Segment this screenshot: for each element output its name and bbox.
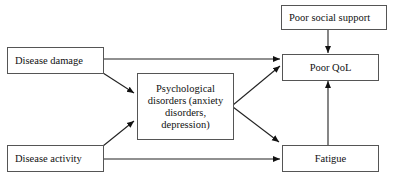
node-disease-activity-label: Disease activity <box>15 153 82 165</box>
node-poor-social-support-label: Poor social support <box>289 12 370 24</box>
node-psychological-disorders-label: Psychological disorders (anxiety disorde… <box>142 83 229 131</box>
node-poor-qol-label: Poor QoL <box>310 62 352 74</box>
node-fatigue-label: Fatigue <box>315 153 347 165</box>
edge-psych-to-fatigue <box>233 107 279 142</box>
node-disease-damage: Disease damage <box>7 47 104 74</box>
edge-psych-to-qol <box>233 66 280 105</box>
node-poor-social-support: Poor social support <box>281 5 387 30</box>
edge-damage-to-psych <box>103 73 134 93</box>
node-fatigue: Fatigue <box>282 145 379 172</box>
edge-activity-to-psych <box>103 121 134 146</box>
node-disease-damage-label: Disease damage <box>15 55 83 67</box>
node-disease-activity: Disease activity <box>7 145 104 172</box>
node-psychological-disorders: Psychological disorders (anxiety disorde… <box>137 73 234 140</box>
node-poor-qol: Poor QoL <box>282 54 379 81</box>
